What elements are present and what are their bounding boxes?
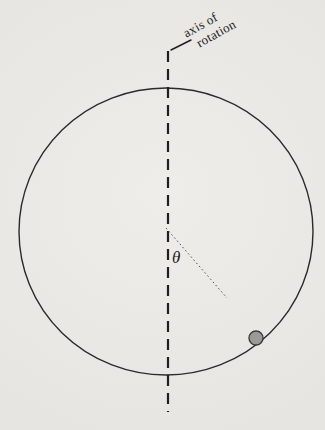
axis-of-rotation-label: axis of rotation [180, 3, 238, 53]
circle-outline [19, 88, 313, 375]
diagram-canvas: axis of rotation θ [0, 0, 325, 430]
axis-of-rotation-text: axis of rotation [180, 3, 238, 53]
label-leader-line [171, 40, 191, 50]
theta-label: θ [172, 248, 180, 267]
ball [249, 331, 263, 345]
rotating-circle-diagram: axis of rotation θ [0, 0, 325, 430]
